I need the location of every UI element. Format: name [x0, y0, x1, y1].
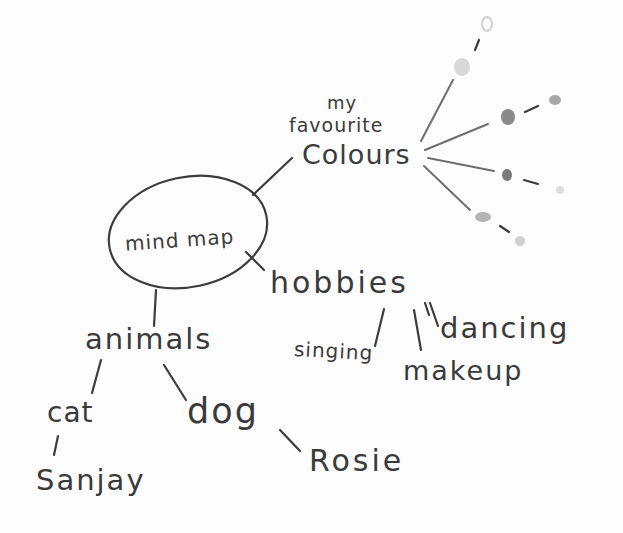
- colour-dash-1: [475, 40, 479, 50]
- sanjay-label: Sanjay: [36, 463, 146, 497]
- connector-center-colours: [253, 158, 292, 195]
- connector-animals-cat: [92, 360, 101, 393]
- colours-label-line-1: my: [327, 92, 357, 113]
- colour-dot-2a: [501, 109, 515, 125]
- connector-hobbies-dancing-1: [425, 303, 429, 315]
- connector-hobbies-singing: [375, 309, 384, 346]
- connector-colour-3: [428, 158, 494, 171]
- singing-label: singing: [293, 337, 373, 365]
- mind-map-canvas: mind map my favourite Colours hobbies si…: [0, 0, 623, 533]
- colour-dot-3b: [556, 186, 564, 194]
- dog-label: dog: [187, 391, 259, 431]
- dancing-label: dancing: [440, 311, 569, 345]
- hobbies-label: hobbies: [270, 265, 409, 300]
- colour-dash-2: [525, 106, 538, 112]
- colour-dot-4b: [515, 236, 525, 246]
- connector-center-animals: [154, 290, 156, 326]
- colour-dot-3a: [502, 169, 512, 181]
- connector-colour-1: [421, 80, 453, 141]
- colour-dot-2b: [549, 95, 561, 105]
- colours-label-line-2: favourite: [289, 114, 383, 136]
- connector-hobbies-dancing-2: [430, 303, 438, 326]
- colour-dot-1b: [482, 17, 492, 31]
- colour-dot-4a: [475, 212, 491, 222]
- connector-dog-rosie: [280, 430, 300, 451]
- connector-animals-dog: [164, 365, 186, 400]
- makeup-label: makeup: [403, 355, 523, 386]
- connector-colour-2: [425, 124, 488, 150]
- connector-colour-4: [424, 166, 470, 210]
- rosie-label: Rosie: [309, 443, 404, 478]
- cat-label: cat: [47, 396, 94, 429]
- connector-hobbies-makeup: [414, 310, 421, 350]
- colour-dash-3: [524, 180, 538, 184]
- colours-label-line-3: Colours: [302, 139, 411, 170]
- colour-dash-4: [500, 226, 509, 232]
- colour-dot-1a: [454, 58, 470, 76]
- connector-cat-sanjay: [54, 436, 58, 455]
- animals-label: animals: [85, 322, 212, 356]
